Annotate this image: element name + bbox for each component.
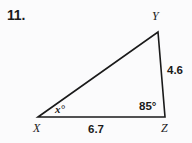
angle-measure-label-x: x° xyxy=(55,104,65,115)
problem-figure-page: 11. Y X Z 4.6 6.7 85° x° xyxy=(0,0,192,143)
vertex-label-z: Z xyxy=(161,122,168,134)
side-length-label-yz: 4.6 xyxy=(167,65,183,77)
vertex-label-x: X xyxy=(33,122,40,134)
vertex-label-y: Y xyxy=(152,10,159,22)
angle-measure-label-z: 85° xyxy=(139,101,156,113)
side-length-label-xz: 6.7 xyxy=(88,124,104,136)
